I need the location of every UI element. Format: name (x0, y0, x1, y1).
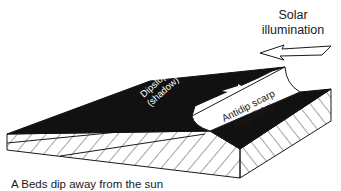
solar-label-line2: illumination (253, 23, 333, 38)
figure-caption: A Beds dip away from the sun (11, 178, 163, 191)
left-arrow-icon (260, 45, 331, 60)
solar-label-line1: Solar (253, 8, 333, 23)
solar-illumination-label: Solar illumination (253, 8, 333, 38)
